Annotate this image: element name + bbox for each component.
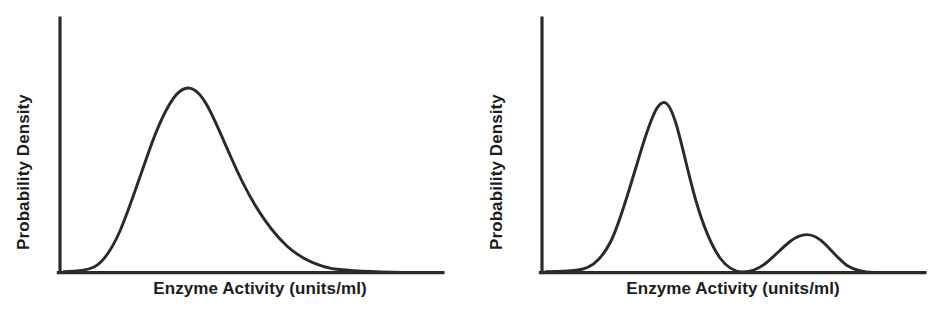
density-plot-unimodal: Probability Density Enzyme Activity (uni… [0, 0, 472, 328]
y-axis-label: Probability Density [14, 94, 34, 250]
density-curve-bimodal [546, 102, 923, 272]
density-plot-bimodal: Probability Density Enzyme Activity (uni… [473, 0, 945, 328]
density-curve-unimodal [64, 88, 441, 272]
y-axis-label: Probability Density [487, 94, 507, 250]
x-axis-label: Enzyme Activity (units/ml) [473, 279, 945, 299]
figure-two-density-plots: Probability Density Enzyme Activity (uni… [0, 0, 945, 328]
x-axis-label: Enzyme Activity (units/ml) [0, 279, 472, 299]
